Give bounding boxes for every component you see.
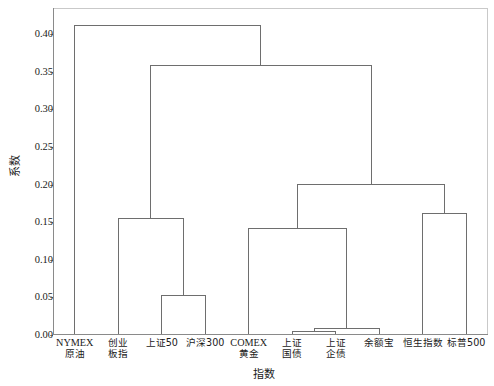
- leaf-label-sse-corp: 上证企债: [326, 337, 346, 360]
- leaf-label-csi300: 沪深300: [186, 337, 224, 348]
- leaf-label-line2: 板指: [108, 348, 128, 359]
- leaf-label-hangseng: 恒生指数: [403, 337, 443, 348]
- leaf-label-chinext: 创业板指: [108, 337, 128, 360]
- y-tick-label: 0.30: [9, 104, 53, 114]
- dendrogram-link: [151, 66, 371, 219]
- y-axis-title: 系数: [6, 146, 22, 186]
- leaf-label-line1: 上证: [326, 337, 346, 348]
- leaf-label-yuebao: 余额宝: [364, 337, 394, 348]
- leaf-label-line2: 原油: [56, 348, 93, 359]
- y-tick-label: 0.10: [9, 255, 53, 265]
- dendrogram-link: [75, 25, 261, 335]
- leaf-label-line1: 余额宝: [364, 337, 394, 348]
- y-tick-label: 0.40: [9, 29, 53, 39]
- leaf-label-nymex: NYMEX原油: [56, 337, 93, 360]
- plot-area: [53, 8, 488, 335]
- leaf-label-sse-treasury: 上证国债: [282, 337, 302, 360]
- leaf-label-sse50: 上证50: [146, 337, 178, 348]
- leaf-label-line1: 恒生指数: [403, 337, 443, 348]
- leaf-label-line1: 标普500: [447, 337, 485, 348]
- leaf-label-line2: 黄金: [230, 348, 267, 359]
- leaf-label-line1: COMEX: [230, 337, 267, 348]
- dendrogram-links: [75, 25, 467, 335]
- y-tick-label: 0.15: [9, 217, 53, 227]
- x-axis-title: 指数: [0, 365, 494, 381]
- leaf-label-sp500: 标普500: [447, 337, 485, 348]
- dendrogram-link: [118, 218, 183, 335]
- dendrogram-figure: 0.000.050.100.150.200.250.300.350.40 系数 …: [0, 0, 494, 386]
- leaf-label-line1: 沪深300: [186, 337, 224, 348]
- dendrogram-svg: [53, 8, 488, 335]
- y-axis-spine: [53, 8, 54, 335]
- leaf-label-line2: 企债: [326, 348, 346, 359]
- dendrogram-link: [162, 295, 206, 335]
- x-axis-spine: [53, 334, 488, 335]
- leaf-label-line1: NYMEX: [56, 337, 93, 348]
- leaf-label-line1: 创业: [108, 337, 128, 348]
- y-tick-label: 0.00: [9, 330, 53, 340]
- leaf-label-line2: 国债: [282, 348, 302, 359]
- y-tick-label: 0.35: [9, 67, 53, 77]
- y-tick-label: 0.05: [9, 292, 53, 302]
- leaf-label-comex: COMEX黄金: [230, 337, 267, 360]
- dendrogram-link: [423, 214, 467, 335]
- dendrogram-link: [249, 228, 347, 335]
- leaf-label-line1: 上证: [282, 337, 302, 348]
- leaf-label-line1: 上证50: [146, 337, 178, 348]
